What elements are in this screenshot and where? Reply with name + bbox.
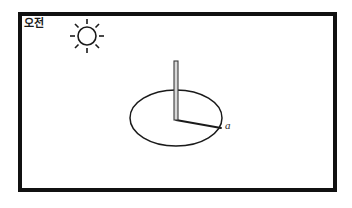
sundial-illustration bbox=[0, 0, 352, 208]
figure-canvas: 오전 a bbox=[0, 0, 352, 208]
shadow-endpoint-label: a bbox=[225, 120, 231, 131]
time-of-day-label: 오전 bbox=[24, 18, 44, 29]
gnomon-rod bbox=[174, 61, 178, 120]
